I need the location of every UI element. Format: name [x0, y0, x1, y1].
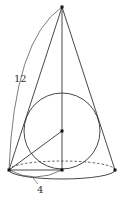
cone-right-slant [62, 7, 115, 170]
apex-point [61, 6, 64, 9]
base-radius-brace [9, 170, 62, 177]
base-left-point [8, 169, 11, 172]
base-right-point [114, 169, 117, 172]
center-to-base-point-line [9, 131, 62, 170]
base-center-point [61, 169, 64, 172]
sphere-center-point [61, 130, 64, 133]
base-radius-label: 4 [37, 184, 43, 195]
cone-left-slant [9, 7, 62, 170]
slant-height-label: 12 [14, 73, 27, 84]
cone-sphere-diagram: 12 4 [0, 0, 125, 206]
